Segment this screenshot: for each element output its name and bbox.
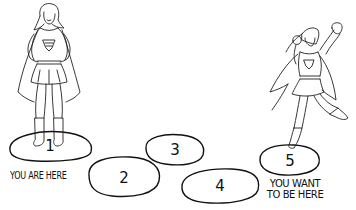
stone-1-label: 1 [45, 137, 55, 155]
stone-5-label: 5 [285, 152, 295, 170]
caption-you-want-to-be-here: YOU WANT TO BE HERE [264, 179, 326, 200]
caption-goal-line-1: YOU WANT [264, 179, 326, 190]
stone-3-label: 3 [170, 141, 180, 159]
flying-hero-figure [270, 23, 348, 149]
stone-4-label: 4 [215, 177, 225, 195]
caption-goal-line-2: TO BE HERE [264, 190, 326, 201]
stone-2-label: 2 [119, 169, 129, 187]
caption-you-are-here: YOU ARE HERE [10, 170, 67, 181]
standing-hero-figure [18, 4, 80, 147]
